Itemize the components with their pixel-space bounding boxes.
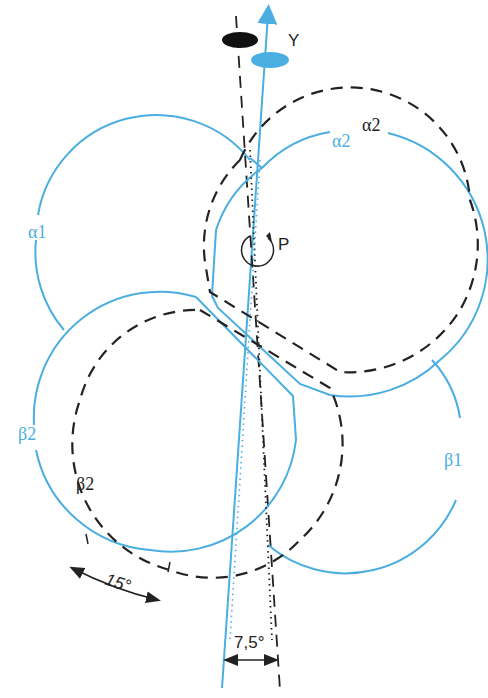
beta2-label-blue: β2	[18, 424, 36, 444]
beta2-outline-black	[72, 310, 342, 578]
beta1-outline-blue	[268, 360, 460, 573]
pivot-label: P	[278, 235, 289, 254]
alpha1-label: α1	[28, 222, 46, 242]
blue-ellipse-marker	[251, 52, 289, 68]
rotation-diagram: Y α2 α2 P α1 β2 β2 β1 15° 7,5°	[0, 0, 488, 698]
y-axis-blue	[222, 14, 268, 688]
tick-15-right	[168, 562, 170, 572]
black-ellipse-marker	[222, 32, 258, 48]
beta2-label-black: β2	[76, 474, 94, 494]
beta1-label: β1	[444, 450, 462, 470]
pivot-rotation-icon	[242, 232, 274, 266]
angle-7-5-label: 7,5°	[234, 633, 264, 652]
tick-15-left	[86, 534, 88, 544]
alpha2-label-blue: α2	[332, 131, 350, 151]
beta2-outline-blue	[34, 292, 296, 552]
alpha2-label-black: α2	[362, 115, 380, 135]
y-axis-label: Y	[288, 31, 299, 50]
dotted-axis-blue	[230, 160, 260, 640]
